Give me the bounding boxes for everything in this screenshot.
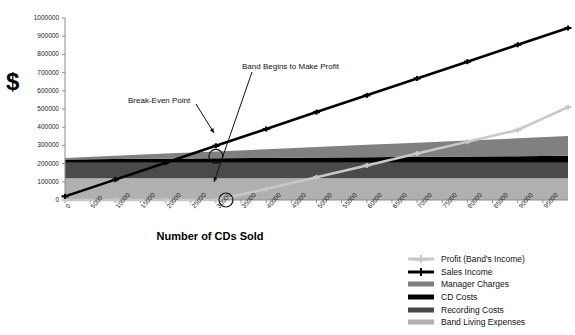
legend-swatch [408,291,434,303]
legend-swatch [408,304,434,316]
legend-label: Recording Costs [441,305,504,315]
area-manager-charges [65,136,568,159]
area-band-living-expenses [65,178,568,200]
y-tick-label: 500000 [7,105,59,112]
legend-item[interactable]: Sales Income [408,266,575,279]
legend-label: CD Costs [441,292,477,302]
y-tick-label: 900000 [7,32,59,39]
legend-swatch [408,253,434,265]
legend-label: Sales Income [441,267,493,277]
legend-swatch [408,316,434,328]
y-tick-label: 0 [7,196,59,203]
legend-label: Band Living Expenses [441,317,525,327]
annotation-label-break-even-point: Break-Even Point [128,96,190,105]
annotation-label-band-begins-to-make-profit: Band Begins to Make Profit [242,62,339,71]
annotation-leader-break-even-point [196,104,214,133]
y-tick-label: 1000000 [7,14,59,21]
legend-swatch [408,278,434,290]
legend-item[interactable]: Recording Costs [408,303,575,316]
legend-swatch [408,266,434,278]
y-tick-label: 100000 [7,178,59,185]
y-tick-label: 400000 [7,123,59,130]
y-tick-label: 600000 [7,87,59,94]
legend-item[interactable]: Profit (Band's Income) [408,253,575,266]
y-tick-label: 800000 [7,50,59,57]
y-tick-label: 200000 [7,160,59,167]
y-tick-label: 300000 [7,141,59,148]
legend-item[interactable]: Manager Charges [408,278,575,291]
legend-item[interactable]: CD Costs [408,291,575,304]
legend-label: Profit (Band's Income) [441,254,525,264]
y-tick-label: 700000 [7,69,59,76]
chart-legend: Profit (Band's Income)Sales IncomeManage… [408,253,575,329]
legend-label: Manager Charges [441,279,509,289]
chart-figure: $ Number of CDs Sold 0100000200000300000… [0,0,575,335]
legend-item[interactable]: Band Living Expenses [408,316,575,329]
